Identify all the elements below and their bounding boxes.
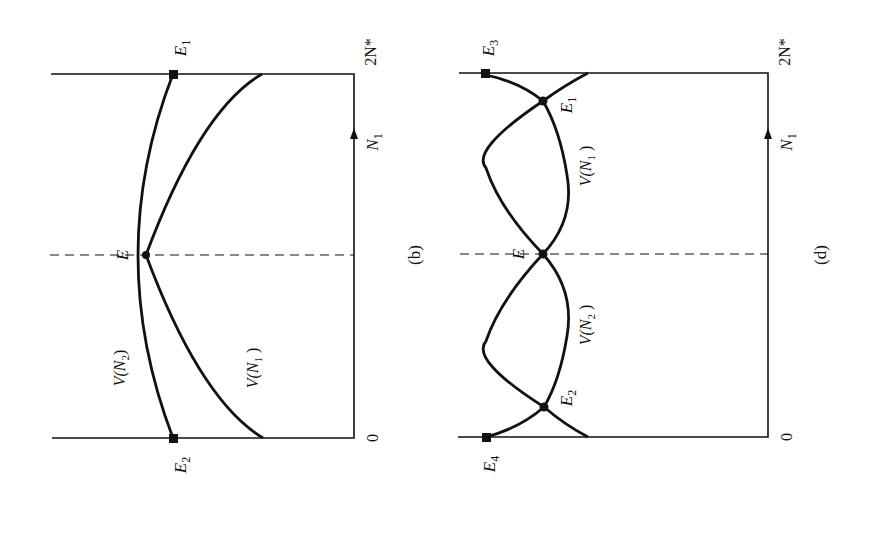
panel-b-point-e1	[169, 70, 178, 79]
svg-text:E2: E2	[171, 457, 193, 474]
panel-d-point-e3	[481, 69, 490, 78]
panel-d-label-e4: E4	[480, 456, 502, 473]
panel-d-point-e4	[482, 433, 491, 442]
panel-d-label-axis: N1	[777, 133, 799, 151]
svg-text:2N*: 2N*	[362, 38, 379, 66]
panel-d-label-e1: E1	[557, 97, 579, 114]
panel-d-label-e2: E2	[557, 390, 579, 407]
svg-text:0: 0	[778, 433, 795, 441]
panel-d-label-v-n2: V(N2 )	[577, 305, 597, 346]
panel-b-label-axis-start: 0	[364, 434, 381, 442]
panel-b-label-e: E	[113, 249, 132, 261]
panel-b-point-e2	[169, 434, 178, 443]
svg-text:V(N1 ): V(N1 )	[244, 348, 264, 389]
svg-text:E1: E1	[171, 40, 193, 57]
panel-d-frame	[458, 73, 768, 437]
svg-text:E: E	[113, 249, 132, 261]
panel-b-axis-arrow-icon	[350, 128, 358, 139]
svg-text:E3: E3	[479, 40, 501, 57]
panel-d-label-axis-start: 0	[778, 433, 795, 441]
panel-b-caption: (b)	[405, 245, 424, 265]
panel-d-point-e1	[539, 97, 548, 106]
panel-d-axis-arrow-icon	[764, 128, 772, 139]
svg-text:(d): (d)	[811, 245, 830, 265]
panel-b-label-e1: E1	[171, 40, 193, 57]
panel-b-label-e2: E2	[171, 457, 193, 474]
svg-text:(b): (b)	[405, 245, 424, 265]
panel-d-point-e2	[540, 403, 549, 412]
figure-canvas: E1 E2 E V(N2) V(N1 ) 2N* N1 0 (b)	[0, 0, 893, 536]
panel-d-point-e	[539, 250, 548, 259]
panel-d-caption: (d)	[811, 245, 830, 265]
svg-text:E: E	[509, 248, 528, 260]
panel-b: E1 E2 E V(N2) V(N1 ) 2N* N1 0 (b)	[50, 38, 424, 474]
panel-d-label-e3: E3	[479, 40, 501, 57]
figure-svg: E1 E2 E V(N2) V(N1 ) 2N* N1 0 (b)	[0, 0, 893, 536]
panel-d-label-axis-end: 2N*	[776, 38, 793, 66]
svg-text:V(N2): V(N2)	[111, 350, 131, 387]
svg-text:E1: E1	[557, 97, 579, 114]
panel-b-label-v-n2: V(N2)	[111, 350, 131, 387]
svg-text:N1: N1	[777, 133, 799, 151]
panel-b-point-e	[142, 251, 150, 259]
svg-text:E2: E2	[557, 390, 579, 407]
panel-b-label-axis: N1	[363, 133, 385, 151]
panel-d: E3 E4 E1 E2 E V(N1 ) V(N2 ) 2N* N1 0 (d)	[458, 38, 830, 473]
panel-d-label-v-n1: V(N1 )	[577, 146, 597, 187]
panel-d-label-e: E	[509, 248, 528, 260]
panel-b-frame	[51, 74, 354, 438]
svg-text:0: 0	[364, 434, 381, 442]
svg-text:V(N1 ): V(N1 )	[577, 146, 597, 187]
panel-b-label-v-n1: V(N1 )	[244, 348, 264, 389]
panel-d-curve-v-n1	[483, 73, 588, 437]
svg-text:N1: N1	[363, 133, 385, 151]
panel-d-curve-v-n2	[483, 75, 588, 437]
svg-text:E4: E4	[480, 456, 502, 473]
svg-text:V(N2 ): V(N2 )	[577, 305, 597, 346]
panel-b-label-axis-end: 2N*	[362, 38, 379, 66]
svg-text:2N*: 2N*	[776, 38, 793, 66]
